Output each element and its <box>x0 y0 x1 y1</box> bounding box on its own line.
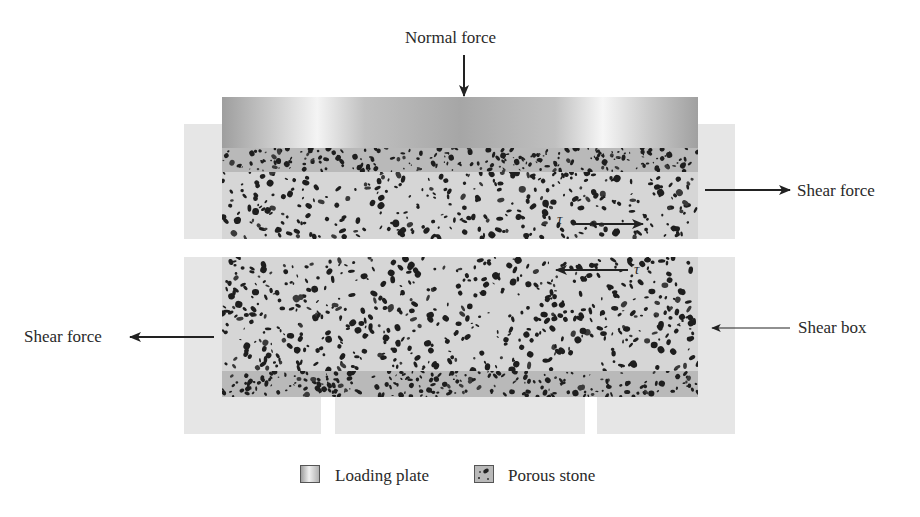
shear-force-right-label: Shear force <box>797 182 875 199</box>
legend-item-loading-plate: Loading plate <box>335 467 429 484</box>
shear-force-left-label: Shear force <box>24 328 102 345</box>
arrows-layer <box>0 0 920 517</box>
legend-item-porous-stone: Porous stone <box>508 467 595 484</box>
porous-stone-swatch-icon <box>474 465 494 483</box>
shear-box-label: Shear box <box>798 319 866 336</box>
tau-lower-label: τ <box>634 262 639 277</box>
tau-upper-label: τ <box>557 212 562 227</box>
loading-plate-swatch-icon <box>300 465 320 483</box>
